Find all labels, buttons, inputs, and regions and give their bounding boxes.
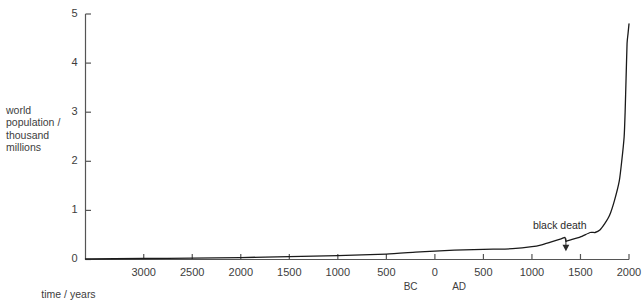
population-curve (86, 24, 630, 259)
axes-group (86, 14, 630, 260)
plot-canvas (0, 0, 643, 306)
x-tick-marks (144, 254, 629, 260)
world-population-chart: world population / thousand millions tim… (0, 0, 643, 306)
y-tick-marks (86, 14, 92, 260)
